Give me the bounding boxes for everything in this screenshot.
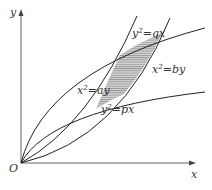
origin-label: O (9, 162, 18, 175)
x-axis-label: x (191, 168, 198, 181)
y-axis-label: y (9, 6, 17, 19)
y-axis-arrow-icon (19, 9, 24, 16)
label-y2-qx: y2=qx (131, 27, 166, 40)
parabola-region-diagram: y x O y2=qx x2=by x2=ay y2=px (0, 0, 212, 190)
label-y2-px: y2=px (100, 103, 135, 116)
x-axis-arrow-icon (189, 161, 196, 166)
label-x2-by: x2=by (152, 63, 186, 76)
label-x2-ay: x2=ay (77, 84, 110, 97)
